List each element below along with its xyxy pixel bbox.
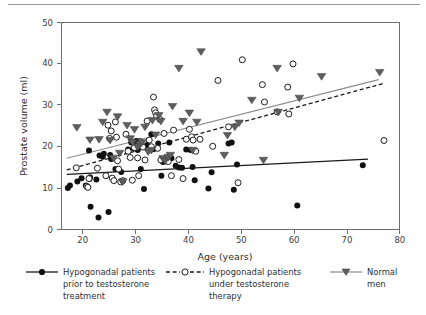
data-point <box>285 84 291 90</box>
data-point <box>135 155 141 161</box>
data-point <box>168 103 177 110</box>
data-point <box>210 143 216 149</box>
data-point <box>185 110 194 117</box>
data-point <box>192 177 198 183</box>
data-points-group <box>65 49 387 221</box>
y-tick-label-50: 50 <box>42 18 53 28</box>
data-point <box>168 173 174 179</box>
data-point <box>229 140 235 146</box>
data-point <box>190 164 196 170</box>
data-point <box>317 74 326 81</box>
data-point <box>231 187 237 193</box>
legend-label-line2: under testosterone <box>209 279 289 289</box>
data-point <box>155 145 161 151</box>
data-point <box>111 178 117 184</box>
legend-label-line3: therapy <box>209 291 242 301</box>
data-point <box>123 122 132 129</box>
y-tick-label-10: 10 <box>42 183 53 193</box>
legend: Hypogonadal patients prior to testostero… <box>26 267 397 301</box>
data-point <box>127 154 133 160</box>
data-point <box>150 94 156 100</box>
legend-entry-hypogonadal-prior[interactable]: Hypogonadal patients prior to testostero… <box>26 267 155 301</box>
data-point <box>95 137 104 144</box>
data-point <box>226 124 232 130</box>
data-point <box>73 125 82 132</box>
legend-label-line2: men <box>367 279 386 289</box>
data-point <box>85 184 91 190</box>
x-axis-ticks: 20 30 40 50 60 70 80 <box>77 230 405 246</box>
data-point <box>223 132 232 139</box>
data-point <box>205 186 211 192</box>
x-axis-title: Age (years) <box>198 251 253 262</box>
y-tick-label-40: 40 <box>42 58 53 68</box>
x-tick-label-60: 60 <box>289 235 300 245</box>
data-point <box>108 128 114 134</box>
data-point <box>175 65 184 72</box>
data-point <box>179 165 185 171</box>
data-point <box>171 127 177 133</box>
legend-label-line3: treatment <box>63 291 106 301</box>
legend-label-line1: Normal <box>367 267 397 277</box>
legend-label-line2: prior to testosterone <box>63 279 149 289</box>
data-point <box>190 137 196 143</box>
data-point <box>197 49 206 56</box>
data-point <box>86 147 92 153</box>
data-point <box>86 137 95 144</box>
data-point <box>103 173 109 179</box>
figure-container: 0 10 20 30 40 50 20 30 40 50 60 70 80 Ag… <box>0 0 426 315</box>
data-point <box>136 173 142 179</box>
data-point <box>158 173 164 179</box>
y-axis-ticks: 0 10 20 30 40 50 <box>42 18 61 235</box>
data-point <box>130 127 139 134</box>
data-point <box>93 176 99 182</box>
data-point <box>86 176 92 182</box>
legend-label-line1: Hypogonadal patients <box>63 267 155 277</box>
data-point <box>259 157 268 164</box>
data-point <box>101 151 107 157</box>
data-point <box>360 162 366 168</box>
data-point <box>273 65 282 72</box>
data-point <box>116 166 122 172</box>
legend-marker-open-circle <box>182 269 188 275</box>
data-point <box>146 137 152 143</box>
data-point <box>239 57 245 63</box>
legend-marker-filled-circle <box>39 269 45 275</box>
data-point <box>176 157 182 163</box>
x-tick-label-20: 20 <box>77 235 88 245</box>
data-point <box>261 99 267 105</box>
legend-entry-normal-men[interactable]: Normal men <box>330 267 397 289</box>
top-divider-rule <box>8 4 420 5</box>
data-point <box>286 111 292 117</box>
data-point <box>234 162 240 168</box>
y-tick-label-30: 30 <box>42 100 53 110</box>
data-point <box>88 204 94 210</box>
y-tick-label-0: 0 <box>48 225 53 235</box>
legend-label-line1: Hypogonadal patients <box>209 267 301 277</box>
data-point <box>247 97 256 104</box>
data-point <box>381 137 387 143</box>
data-point <box>220 152 229 159</box>
data-point <box>161 130 167 136</box>
data-point <box>186 126 192 132</box>
data-point <box>375 69 384 76</box>
data-point <box>259 82 265 88</box>
y-tick-label-20: 20 <box>42 141 53 151</box>
data-point <box>106 209 112 215</box>
x-tick-label-80: 80 <box>394 235 405 245</box>
data-point <box>166 140 172 146</box>
data-point <box>67 183 73 189</box>
data-point <box>79 175 85 181</box>
data-point <box>141 186 147 192</box>
legend-entry-hypogonadal-under[interactable]: Hypogonadal patients under testosterone … <box>166 267 301 301</box>
data-point <box>103 109 112 116</box>
data-point <box>96 214 102 220</box>
data-point <box>294 202 300 208</box>
data-point <box>290 61 296 67</box>
x-tick-label-30: 30 <box>130 235 141 245</box>
data-point <box>197 136 203 142</box>
x-tick-label-50: 50 <box>236 235 247 245</box>
data-point <box>179 118 188 125</box>
data-point <box>73 165 79 171</box>
series-points-1 <box>73 57 387 191</box>
data-point <box>235 180 241 186</box>
